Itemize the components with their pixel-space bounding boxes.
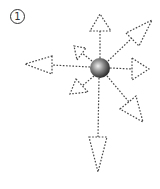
vector-upper-right xyxy=(108,20,152,61)
sphere xyxy=(90,58,110,78)
vector-down xyxy=(89,78,107,172)
vector-up xyxy=(90,14,111,58)
vector-lower-right xyxy=(107,76,143,122)
vector-lower-left-short xyxy=(70,76,94,94)
force-diagram xyxy=(0,0,160,189)
vector-left xyxy=(25,56,90,74)
vector-right xyxy=(110,58,149,80)
vector-upper-left-short xyxy=(74,46,92,61)
